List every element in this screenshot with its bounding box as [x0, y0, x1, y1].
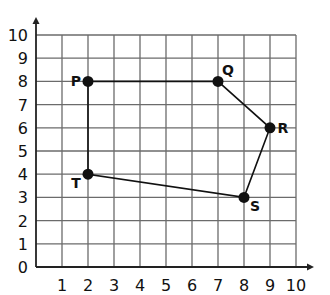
y-tick-label: 5: [18, 142, 28, 161]
point-dot-icon: [239, 192, 250, 203]
y-tick-label: 8: [18, 72, 28, 91]
y-tick-labels: 012345678910: [8, 26, 28, 277]
x-tick-label: 4: [135, 276, 145, 295]
point-label: P: [71, 73, 81, 89]
point-label: T: [71, 175, 81, 191]
y-tick-label: 4: [18, 165, 28, 184]
point-dot-icon: [83, 76, 94, 87]
x-tick-label: 10: [286, 276, 306, 295]
point-q: Q: [213, 62, 235, 87]
x-axis-arrow-icon: [307, 264, 314, 271]
point-dot-icon: [265, 122, 276, 133]
y-tick-label: 0: [18, 258, 28, 277]
x-tick-label: 6: [187, 276, 197, 295]
x-tick-label: 8: [239, 276, 249, 295]
polygon-pqrst: [88, 81, 270, 197]
x-tick-label: 1: [57, 276, 67, 295]
y-tick-label: 10: [8, 26, 28, 45]
x-tick-labels: 12345678910: [57, 276, 306, 295]
x-tick-label: 9: [265, 276, 275, 295]
grid-lines: [36, 35, 296, 267]
x-tick-label: 5: [161, 276, 171, 295]
y-tick-label: 3: [18, 188, 28, 207]
y-tick-label: 1: [18, 235, 28, 254]
y-tick-label: 2: [18, 212, 28, 231]
point-label: R: [278, 120, 289, 136]
axes: [33, 17, 315, 271]
x-tick-label: 7: [213, 276, 223, 295]
point-label: S: [250, 198, 260, 214]
y-axis-arrow-icon: [33, 17, 40, 24]
x-tick-label: 3: [109, 276, 119, 295]
point-dot-icon: [83, 169, 94, 180]
coordinate-grid: 12345678910 012345678910 PQRST: [0, 0, 330, 295]
x-tick-label: 2: [83, 276, 93, 295]
labeled-points: PQRST: [71, 62, 289, 214]
point-s: S: [239, 192, 261, 215]
y-tick-label: 7: [18, 96, 28, 115]
polygon-outline: [88, 81, 270, 197]
point-t: T: [71, 169, 93, 192]
point-label: Q: [222, 62, 234, 78]
y-tick-label: 9: [18, 49, 28, 68]
y-tick-label: 6: [18, 119, 28, 138]
